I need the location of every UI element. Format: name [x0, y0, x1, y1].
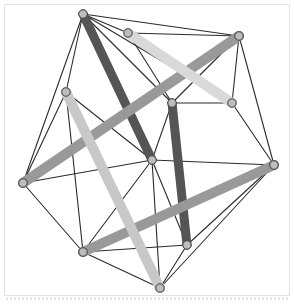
node-mid-upper-left — [62, 88, 70, 96]
node-mid-right — [228, 99, 236, 107]
tensegrity-figure-container — [0, 0, 294, 304]
node-mid-center — [168, 99, 176, 107]
node-bottom-left — [79, 248, 87, 256]
cable-n3-n8 — [232, 103, 274, 165]
node-top-apex — [79, 10, 87, 18]
cable-n3-n9 — [152, 160, 274, 165]
cable-n3-n10 — [187, 165, 274, 245]
cable-n0-n1 — [83, 14, 239, 36]
node-left-apex — [19, 179, 27, 187]
node-mid-lower — [148, 156, 156, 164]
strut-light-right — [128, 33, 232, 103]
cable-n1-n3 — [239, 36, 274, 165]
node-upper-mid — [124, 29, 132, 37]
cable-n0-n6 — [66, 14, 83, 92]
node-top-right — [235, 32, 243, 40]
node-lower-center — [183, 241, 191, 249]
cable-n2-n4 — [23, 183, 83, 252]
strut-dark-vertical — [172, 103, 187, 245]
node-right-apex — [270, 161, 278, 169]
strut-medium-long — [23, 36, 239, 183]
struts-layer — [18, 10, 279, 294]
tensegrity-scene — [0, 0, 294, 304]
cable-n5-n10 — [160, 245, 187, 288]
node-bottom-apex — [156, 284, 164, 292]
